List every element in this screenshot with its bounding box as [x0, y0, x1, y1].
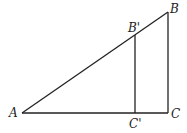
label-C: C — [171, 107, 180, 121]
label-B-prime: B' — [127, 21, 140, 35]
triangle-diagram: A B C B' C' — [0, 0, 187, 133]
label-B: B — [169, 2, 179, 16]
label-A: A — [8, 106, 18, 120]
label-C-prime: C' — [129, 117, 141, 131]
segment-AB — [22, 12, 168, 113]
